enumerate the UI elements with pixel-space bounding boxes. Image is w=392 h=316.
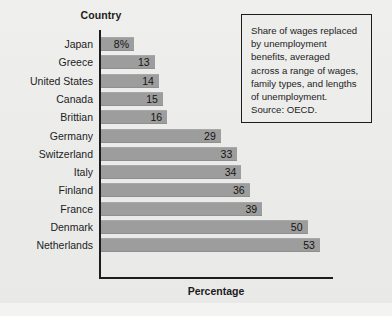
bar-value-label: 36 — [233, 183, 245, 197]
bar-row: Denmark50 — [0, 220, 392, 234]
bar-value-label: 13 — [138, 55, 150, 69]
bar-container: 15 — [101, 92, 163, 106]
caption-line: family types, and lengths — [251, 77, 365, 90]
bar-container: 14 — [101, 74, 159, 88]
bar — [101, 183, 250, 197]
category-label: Finland — [0, 183, 93, 197]
category-label: Japan — [0, 37, 93, 51]
bar — [101, 147, 237, 161]
bar-container: 13 — [101, 55, 155, 69]
category-label: Denmark — [0, 220, 93, 234]
chart-figure: Country Japan8%Greece13United States14Ca… — [0, 0, 392, 316]
caption-line: by unemployment — [251, 37, 365, 50]
category-label: France — [0, 202, 93, 216]
bar-row: Switzerland33 — [0, 147, 392, 161]
category-label: Germany — [0, 129, 93, 143]
bar — [101, 129, 221, 143]
caption-text: Share of wages replacedby unemploymentbe… — [251, 24, 365, 116]
bar-container: 16 — [101, 110, 167, 124]
bar — [101, 202, 262, 216]
bar-value-label: 50 — [291, 220, 303, 234]
caption-line: across a range of wages, — [251, 64, 365, 77]
bar-container: 50 — [101, 220, 308, 234]
bar-value-label: 29 — [204, 129, 216, 143]
bar-container: 8% — [101, 37, 134, 51]
category-label: Greece — [0, 55, 93, 69]
bar-value-label: 34 — [225, 165, 237, 179]
bar-value-label: 16 — [150, 110, 162, 124]
bar-row: Netherlands53 — [0, 238, 392, 252]
category-label: United States — [0, 74, 93, 88]
bar — [101, 220, 308, 234]
bar-value-label: 14 — [142, 74, 154, 88]
caption-line: of unemployment. — [251, 90, 365, 103]
bar-container: 36 — [101, 183, 250, 197]
bar — [101, 165, 241, 179]
category-label: Netherlands — [0, 238, 93, 252]
bar-container: 29 — [101, 129, 221, 143]
bar-value-label: 53 — [303, 238, 315, 252]
bar — [101, 238, 320, 252]
x-axis-line — [99, 277, 333, 279]
bar-row: France39 — [0, 202, 392, 216]
caption-line: Source: OECD. — [251, 103, 365, 116]
category-label: Switzerland — [0, 147, 93, 161]
bar-container: 33 — [101, 147, 237, 161]
bar-row: Germany29 — [0, 129, 392, 143]
caption-line: benefits, averaged — [251, 50, 365, 63]
x-axis-title: Percentage — [99, 285, 333, 297]
bar-container: 34 — [101, 165, 241, 179]
bar-container: 39 — [101, 202, 262, 216]
category-label: Canada — [0, 92, 93, 106]
caption-line: Share of wages replaced — [251, 24, 365, 37]
bar-container: 53 — [101, 238, 320, 252]
bar-row: Finland36 — [0, 183, 392, 197]
bar-value-label: 33 — [221, 147, 233, 161]
bar-value-label: 39 — [245, 202, 257, 216]
category-label: Italy — [0, 165, 93, 179]
category-label: Brittian — [0, 110, 93, 124]
figure-bottom-band — [0, 303, 392, 316]
bar-value-label: 15 — [146, 92, 158, 106]
bar-value-label: 8% — [114, 37, 129, 51]
bar-row: Italy34 — [0, 165, 392, 179]
caption-box: Share of wages replacedby unemploymentbe… — [241, 14, 372, 123]
